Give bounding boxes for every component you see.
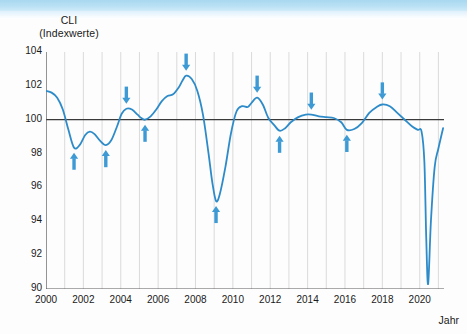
arrow-head-icon (307, 104, 315, 110)
arrow-head-icon (343, 135, 351, 141)
arrow-shaft (278, 141, 281, 153)
chart-svg (46, 52, 444, 289)
arrow-shaft (345, 140, 348, 152)
down-arrow-marker (122, 87, 130, 104)
x-tick-label: 2012 (259, 294, 281, 305)
arrow-head-icon (182, 65, 190, 71)
x-tick-label: 2016 (334, 294, 356, 305)
x-tick-label: 2020 (409, 294, 431, 305)
down-arrow-marker (253, 76, 261, 93)
arrow-shaft (214, 212, 217, 224)
up-arrow-marker (275, 136, 283, 153)
y-axis-tick-labels: 9092949698100102104 (14, 52, 42, 289)
y-tick-label: 90 (16, 282, 42, 293)
x-tick-label: 2000 (35, 294, 57, 305)
y-axis-title: CLI (Indexwerte) (14, 14, 124, 40)
y-tick-label: 100 (16, 113, 42, 124)
down-arrow-marker (307, 93, 315, 110)
y-tick-label: 92 (16, 248, 42, 259)
down-arrow-marker (378, 82, 386, 99)
arrow-head-icon (141, 125, 149, 131)
arrow-head-icon (253, 87, 261, 93)
chart-subtitle: (Indexwerte) (14, 27, 124, 40)
x-tick-label: 2014 (296, 294, 318, 305)
x-tick-label: 2006 (147, 294, 169, 305)
y-tick-label: 104 (16, 45, 42, 56)
arrow-head-icon (102, 150, 110, 156)
arrow-shaft (255, 76, 258, 88)
y-tick-label: 102 (16, 79, 42, 90)
up-arrow-marker (343, 135, 351, 152)
x-tick-label: 2008 (184, 294, 206, 305)
down-arrow-marker (182, 54, 190, 71)
arrow-shaft (184, 54, 187, 66)
up-arrow-marker (102, 150, 110, 167)
x-tick-label: 2010 (222, 294, 244, 305)
up-arrow-marker (141, 125, 149, 142)
y-tick-label: 94 (16, 214, 42, 225)
y-tick-label: 96 (16, 180, 42, 191)
arrow-head-icon (378, 93, 386, 99)
arrow-shaft (104, 156, 107, 168)
x-tick-label: 2004 (110, 294, 132, 305)
x-axis-tick-labels: 2000200220042006200820102012201420162018… (46, 292, 444, 310)
gridlines (46, 52, 438, 289)
x-tick-label: 2018 (371, 294, 393, 305)
chart-title: CLI (14, 14, 124, 27)
arrow-head-icon (275, 136, 283, 142)
plot-area (46, 52, 444, 289)
arrow-head-icon (70, 153, 78, 159)
arrow-head-icon (122, 98, 130, 104)
x-axis-title: Jahr (439, 314, 459, 326)
x-tick-label: 2002 (72, 294, 94, 305)
y-tick-label: 98 (16, 147, 42, 158)
arrow-shaft (143, 130, 146, 142)
series-line-cli (46, 76, 443, 284)
arrow-shaft (125, 87, 128, 99)
arrow-shaft (381, 82, 384, 94)
arrow-shaft (72, 158, 75, 170)
arrow-head-icon (212, 206, 220, 212)
chart-page: CLI (Indexwerte) 9092949698100102104 200… (0, 0, 467, 334)
up-arrow-marker (212, 206, 220, 223)
up-arrow-marker (70, 153, 78, 170)
arrow-shaft (310, 93, 313, 105)
